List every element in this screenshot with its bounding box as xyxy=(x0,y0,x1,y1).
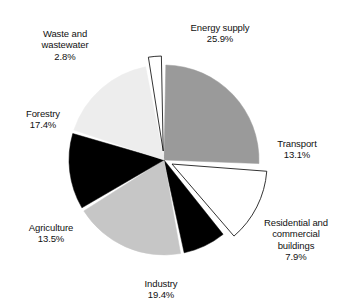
slice-label-percent: 7.9% xyxy=(252,251,340,263)
slice-label-transport: Transport 13.1% xyxy=(258,126,336,172)
pie-slice-group xyxy=(69,56,267,255)
slice-label-name: Forestry xyxy=(26,108,60,119)
pie-chart-figure: Energy supply 25.9% Waste and wastewater… xyxy=(0,0,341,305)
slice-label-name: Transport xyxy=(277,138,316,149)
slice-label-name: Waste and wastewater xyxy=(41,28,88,51)
slice-label-energy-supply: Energy supply 25.9% xyxy=(168,10,272,56)
slice-label-percent: 13.5% xyxy=(4,233,98,245)
slice-label-agriculture: Agriculture 13.5% xyxy=(4,210,98,256)
slice-label-name: Industry xyxy=(145,278,178,289)
slice-label-percent: 13.1% xyxy=(258,149,336,161)
slice-label-percent: 25.9% xyxy=(168,33,272,45)
slice-label-percent: 19.4% xyxy=(116,289,206,301)
slice-label-name: Residential and commercial buildings xyxy=(264,217,328,251)
slice-label-name: Agriculture xyxy=(29,222,73,233)
slice-label-residential-commercial-buildings: Residential and commercial buildings 7.9… xyxy=(252,205,340,274)
slice-label-name: Energy supply xyxy=(191,22,250,33)
slice-label-percent: 2.8% xyxy=(17,51,113,63)
slice-label-forestry: Forestry 17.4% xyxy=(4,96,82,142)
slice-label-percent: 17.4% xyxy=(4,119,82,131)
pie-slice-energy-supply xyxy=(164,65,259,164)
slice-label-industry: Industry 19.4% xyxy=(116,266,206,305)
slice-label-waste-and-wastewater: Waste and wastewater 2.8% xyxy=(17,16,113,74)
